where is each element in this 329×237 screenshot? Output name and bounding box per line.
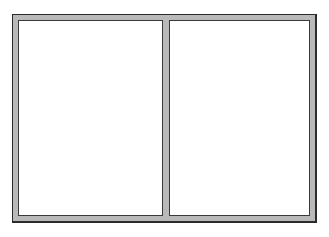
left-window-pane [18, 20, 163, 216]
window-frame [12, 14, 317, 223]
right-window-pane [169, 20, 310, 216]
